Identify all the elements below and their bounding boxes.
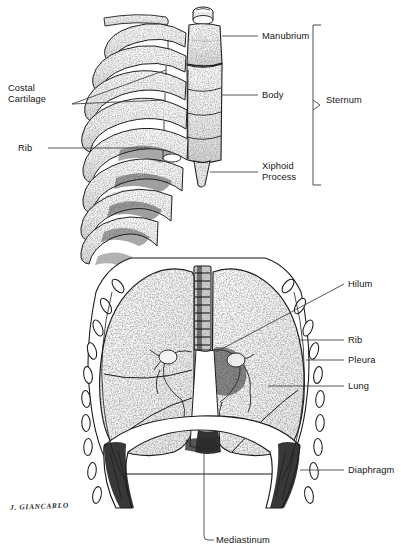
sternum-top-knob — [193, 7, 213, 25]
label-rib-lower: Rib — [348, 335, 362, 346]
label-sternum: Sternum — [326, 95, 362, 106]
label-costal-line2: Cartilage — [8, 94, 46, 105]
label-manubrium: Manubrium — [262, 31, 309, 42]
rib-slice — [316, 414, 325, 431]
rib-notch — [163, 154, 181, 162]
rib-slice — [83, 438, 92, 455]
trachea — [194, 266, 211, 350]
hilum-left — [227, 353, 245, 367]
label-body: Body — [262, 90, 284, 101]
sternum-body — [187, 64, 222, 163]
label-xiphoid-line2: Process — [262, 172, 296, 183]
label-hilum: Hilum — [348, 279, 372, 290]
label-pleura: Pleura — [348, 355, 375, 366]
hilum-right — [159, 350, 177, 364]
label-xiphoid-line1: Xiphoid — [262, 161, 294, 172]
manubrium — [187, 24, 222, 66]
rib-slice — [82, 414, 91, 431]
anatomy-plate — [0, 0, 401, 551]
label-diaphragm: Diaphragm — [348, 465, 394, 476]
label-lung: Lung — [348, 381, 369, 392]
label-mediastinum: Mediastinum — [216, 535, 270, 546]
rib-slice — [313, 438, 322, 455]
figure-thoracic-cavity — [81, 258, 325, 508]
label-rib-upper: Rib — [18, 143, 32, 154]
sternum — [187, 7, 222, 187]
label-costal-line1: Costal — [8, 83, 35, 94]
